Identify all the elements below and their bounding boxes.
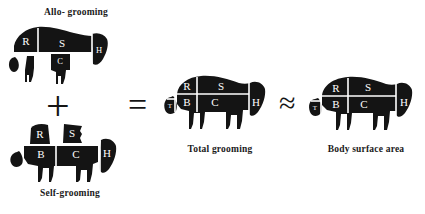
self-tail-piece	[10, 151, 22, 167]
self-grooming-svg: R S B C H	[8, 122, 126, 190]
body-surface-area-caption: Body surface area	[310, 144, 422, 154]
self-lower-body	[24, 146, 98, 182]
allo-region-label-H: H	[96, 45, 102, 55]
total-region-label-C: C	[211, 96, 218, 108]
equals-operator: =	[128, 88, 147, 122]
self-region-label-R: R	[36, 128, 44, 140]
body-surface-area-svg: R S B C H T	[308, 72, 420, 137]
body-surface-area-figure: R S B C H T	[308, 72, 420, 137]
allo-region-label-R: R	[22, 35, 30, 47]
total-region-label-B: B	[183, 96, 190, 108]
approx-operator: ≈	[279, 88, 295, 118]
self-grooming-figure: R S B C H	[8, 122, 126, 190]
allo-region-label-S: S	[59, 37, 65, 49]
self-region-label-H: H	[103, 147, 111, 159]
allo-grooming-figure: R S C H	[8, 20, 118, 86]
bsa-region-label-S: S	[365, 81, 371, 93]
total-grooming-figure: R S B C H T	[163, 72, 275, 137]
total-grooming-svg: R S B C H T	[163, 72, 275, 137]
allo-front-leg-piece	[25, 56, 34, 82]
allo-grooming-svg: R S C H	[8, 20, 118, 86]
bsa-region-label-T: T	[313, 104, 318, 112]
figure-canvas: Allo- grooming	[0, 0, 425, 214]
self-region-label-C: C	[72, 148, 79, 160]
total-grooming-caption: Total grooming	[168, 144, 272, 154]
bsa-region-label-C: C	[360, 98, 367, 110]
total-region-label-T: T	[168, 102, 173, 110]
self-region-label-B: B	[37, 148, 44, 160]
bsa-region-label-H: H	[400, 96, 408, 108]
self-region-label-S: S	[69, 127, 75, 139]
self-grooming-caption: Self-grooming	[18, 188, 122, 198]
total-region-label-S: S	[218, 80, 224, 92]
allo-region-label-C: C	[57, 56, 63, 66]
plus-operator: +	[46, 85, 70, 127]
bsa-region-label-R: R	[332, 82, 340, 94]
total-region-label-R: R	[183, 80, 191, 92]
allo-grooming-caption: Allo- grooming	[24, 7, 128, 17]
total-region-label-H: H	[252, 96, 260, 108]
allo-tail-piece	[9, 57, 19, 72]
bsa-region-label-B: B	[332, 98, 339, 110]
